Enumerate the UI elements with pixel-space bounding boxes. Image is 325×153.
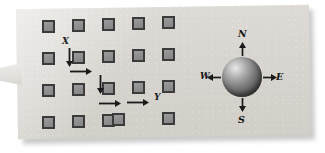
path-end-label: Y [154,93,160,102]
path-arrow-right [127,98,151,107]
path-arrow-right [70,67,94,76]
path-arrow-right [99,99,123,108]
path-arrow-down [96,75,105,96]
compass-label-west: W [200,72,210,81]
path-arrow-down [65,48,74,69]
compass-sphere [222,57,262,97]
compass-arrow-east [263,73,277,82]
compass-label-north: N [238,29,247,39]
compass-arrow-south [238,98,247,112]
compass-label-south: S [238,115,245,125]
compass-label-east: E [276,72,283,82]
path-start-label: X [62,37,69,46]
compass-arrow-north [238,42,247,56]
figure-canvas: XY NESW [0,0,325,153]
